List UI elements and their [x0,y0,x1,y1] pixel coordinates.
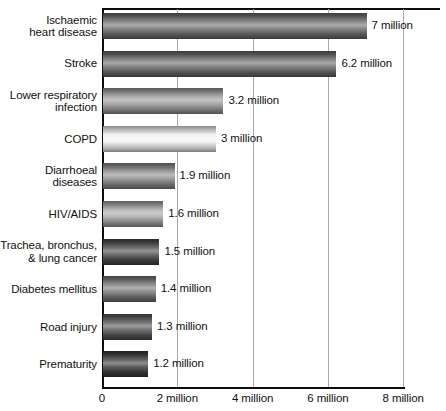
bar-value-label: 3.2 million [228,94,279,106]
bar [103,276,156,302]
bar-value-label: 6.2 million [341,57,392,69]
gridline-8m [403,9,404,387]
bar-value-label: 7 million [372,19,413,31]
category-label: Ischaemic heart disease [0,14,97,39]
x-tick-label: 6 million [307,392,348,404]
x-tick-label: 2 million [157,392,198,404]
horizontal-bar-chart: Ischaemic heart disease Stroke Lower res… [0,0,446,411]
bar-value-label: 1.9 million [180,169,231,181]
bar-value-label: 1.6 million [168,207,219,219]
bar [103,88,223,114]
bar-value-label: 1.2 million [153,357,204,369]
category-label: Road injury [0,321,97,334]
category-label-column: Ischaemic heart disease Stroke Lower res… [0,0,97,411]
bar [103,13,367,39]
bar [103,126,216,152]
bar-value-label: 1.5 million [164,245,215,257]
bar-value-label: 3 million [221,132,262,144]
category-label: Stroke [0,57,97,70]
x-tick-label: 0 [99,392,105,404]
category-label: Prematurity [0,358,97,371]
bar [103,201,163,227]
bar [103,239,159,265]
bar [103,314,152,340]
bar-value-label: 1.4 million [161,282,212,294]
category-label: HIV/AIDS [0,208,97,221]
bar [103,351,148,377]
x-axis-line [102,387,405,389]
category-label: Diarrhoeal diseases [0,164,97,189]
x-tick-label: 4 million [232,392,273,404]
bar [103,51,336,77]
x-tick-label: 8 million [383,392,424,404]
category-label: Diabetes mellitus [0,283,97,296]
plot-area: 7 million6.2 million3.2 million3 million… [102,0,446,411]
plot-top-border [102,8,440,10]
category-label: Trachea, bronchus, & lung cancer [0,239,97,264]
bar-value-label: 1.3 million [157,320,208,332]
category-label: COPD [0,133,97,146]
bar [103,163,175,189]
category-label: Lower respiratory infection [0,89,97,114]
